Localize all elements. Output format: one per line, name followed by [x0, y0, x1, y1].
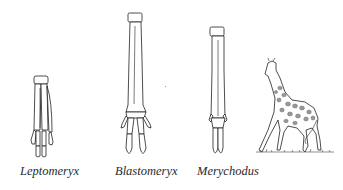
merychodus-limb-drawing [209, 27, 227, 153]
stray-dot [165, 86, 166, 87]
figure-canvas [0, 0, 343, 190]
leptomeryx-limb-drawing [31, 76, 53, 157]
label-blastomeryx: Blastomeryx [115, 164, 177, 179]
label-leptomeryx: Leptomeryx [20, 164, 79, 179]
blastomeryx-limb-drawing [121, 13, 151, 154]
label-merychodus: Merychodus [197, 164, 259, 179]
giraffe-drawing [256, 58, 334, 152]
